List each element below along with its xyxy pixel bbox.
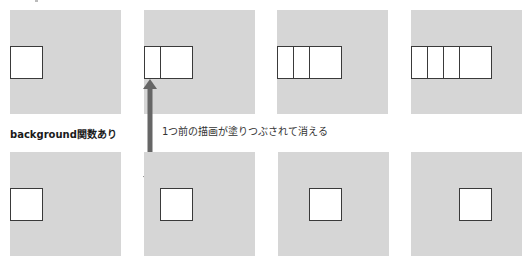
drawn-rect (160, 188, 193, 221)
canvas-frame-4-bottom (411, 152, 522, 256)
drawn-rect (427, 46, 444, 79)
section-label: background関数あり (10, 126, 117, 141)
drawn-rect (144, 46, 161, 79)
canvas-frame-2-top (144, 10, 255, 114)
cropped-heading-remnant (35, 0, 38, 2)
canvas-frame-3-bottom (278, 152, 389, 256)
annotation-text: 1つ前の描画が塗りつぶされて消える (162, 123, 328, 138)
drawn-rect (411, 46, 428, 79)
canvas-frame-1-bottom (10, 152, 121, 256)
drawn-rect (309, 46, 342, 79)
drawn-rect (459, 188, 492, 221)
canvas-frame-2-bottom (144, 152, 255, 256)
drawn-rect (10, 46, 43, 79)
drawn-rect (10, 188, 43, 221)
drawn-rect (459, 46, 492, 79)
drawn-rect (443, 46, 460, 79)
canvas-frame-3-top (277, 10, 388, 114)
drawn-rect (293, 46, 310, 79)
drawn-rect (277, 46, 294, 79)
canvas-frame-1-top (10, 10, 121, 114)
canvas-frame-4-top (411, 10, 522, 114)
drawn-rect (309, 188, 342, 221)
drawn-rect (160, 46, 193, 79)
